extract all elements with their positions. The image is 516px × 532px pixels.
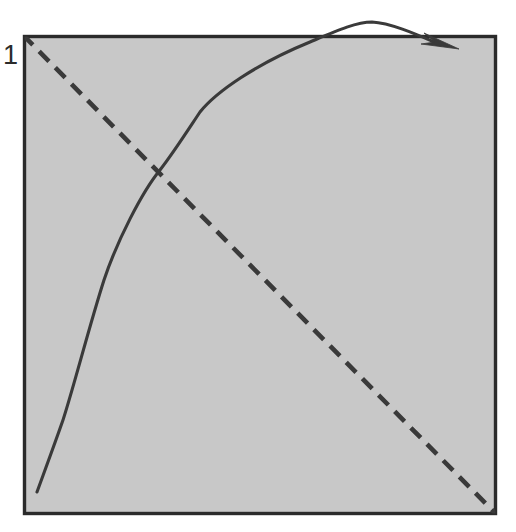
y-axis-top-tick-label: 1 — [3, 42, 18, 69]
chart-svg — [0, 0, 516, 532]
figure-container — [0, 0, 516, 532]
